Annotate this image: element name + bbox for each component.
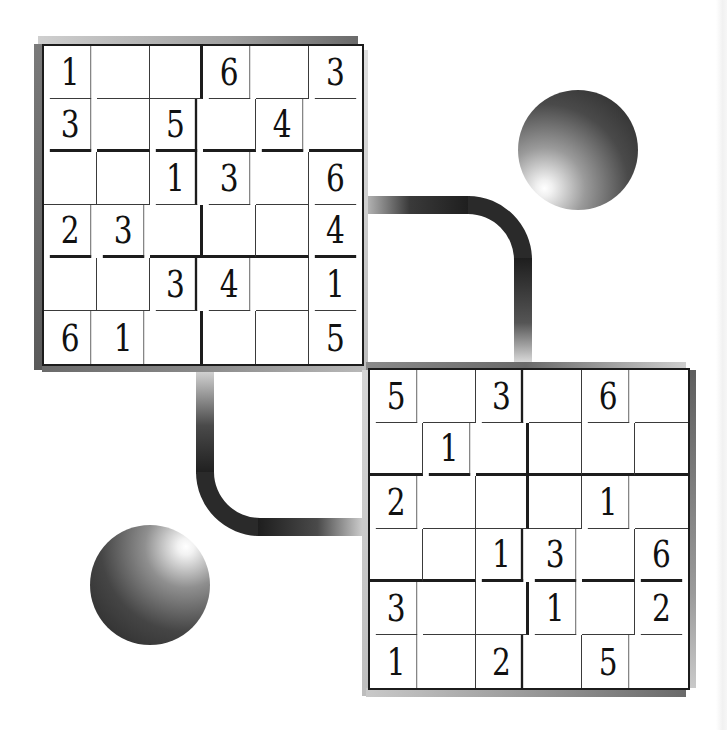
- sudoku-cell-given[interactable]: 5: [588, 635, 629, 688]
- sudoku-cell-empty[interactable]: [256, 46, 309, 99]
- sudoku-cell-given[interactable]: 1: [482, 529, 523, 582]
- sudoku-cell-given[interactable]: 3: [156, 258, 197, 311]
- sudoku-puzzle-top-left: 163354136234341615: [34, 36, 370, 372]
- sudoku-cell-given[interactable]: 5: [156, 99, 197, 152]
- sudoku-cell-empty[interactable]: [582, 423, 635, 476]
- sudoku-cell-empty[interactable]: [423, 476, 476, 529]
- sudoku-cell-given[interactable]: 1: [588, 476, 629, 529]
- sudoku-cell-empty[interactable]: [476, 476, 529, 529]
- sudoku-cell-empty[interactable]: [635, 476, 688, 529]
- sudoku-cell-empty[interactable]: [529, 423, 582, 476]
- sudoku-cell-empty[interactable]: [203, 205, 256, 258]
- sudoku-cell-empty[interactable]: [44, 152, 97, 205]
- sudoku-cell-empty[interactable]: [150, 205, 203, 258]
- sudoku-cell-empty[interactable]: [203, 311, 256, 364]
- sudoku-cell-empty[interactable]: [476, 423, 529, 476]
- sudoku-cell-empty[interactable]: [423, 370, 476, 423]
- sudoku-cell-given[interactable]: 4: [315, 205, 356, 258]
- connector-bottom-left-pipe: [190, 366, 370, 546]
- sudoku-cell-given[interactable]: 6: [588, 370, 629, 423]
- sudoku-cell-empty[interactable]: [309, 99, 362, 152]
- sudoku-cell-given[interactable]: 2: [50, 205, 91, 258]
- sudoku-cell-empty[interactable]: [582, 529, 635, 582]
- sudoku-cell-empty[interactable]: [529, 476, 582, 529]
- sudoku-cell-given[interactable]: 2: [641, 582, 682, 635]
- sudoku-cell-given[interactable]: 5: [315, 311, 356, 364]
- sudoku-cell-empty[interactable]: [203, 99, 256, 152]
- sphere-bottom-left: [90, 525, 210, 645]
- sudoku-cell-empty[interactable]: [256, 258, 309, 311]
- sudoku-cell-empty[interactable]: [476, 582, 529, 635]
- sudoku-cell-empty[interactable]: [582, 582, 635, 635]
- sudoku-cell-empty[interactable]: [97, 46, 150, 99]
- sudoku-cell-given[interactable]: 6: [209, 46, 250, 99]
- sudoku-cell-given[interactable]: 1: [156, 152, 197, 205]
- sudoku-cell-empty[interactable]: [256, 311, 309, 364]
- sudoku-cell-given[interactable]: 3: [209, 152, 250, 205]
- sudoku-cell-empty[interactable]: [423, 582, 476, 635]
- sudoku-cell-given[interactable]: 2: [376, 476, 417, 529]
- sudoku-cell-given[interactable]: 6: [315, 152, 356, 205]
- sudoku-cell-given[interactable]: 6: [50, 311, 91, 364]
- sudoku-cell-empty[interactable]: [256, 152, 309, 205]
- sudoku-grid: 163354136234341615: [42, 44, 364, 366]
- sudoku-cell-empty[interactable]: [423, 635, 476, 688]
- sudoku-cell-empty[interactable]: [256, 205, 309, 258]
- sudoku-cell-given[interactable]: 3: [376, 582, 417, 635]
- sudoku-cell-empty[interactable]: [97, 258, 150, 311]
- sudoku-cell-empty[interactable]: [97, 99, 150, 152]
- sudoku-cell-given[interactable]: 4: [209, 258, 250, 311]
- sudoku-cell-given[interactable]: 1: [376, 635, 417, 688]
- sudoku-cell-empty[interactable]: [423, 529, 476, 582]
- sudoku-grid: 536121136312125: [368, 368, 690, 690]
- sudoku-cell-empty[interactable]: [44, 258, 97, 311]
- sudoku-cell-given[interactable]: 1: [535, 582, 576, 635]
- sudoku-cell-empty[interactable]: [97, 152, 150, 205]
- sudoku-cell-empty[interactable]: [635, 423, 688, 476]
- sphere-top-right: [518, 90, 638, 210]
- sudoku-cell-given[interactable]: 5: [376, 370, 417, 423]
- sudoku-cell-given[interactable]: 1: [103, 311, 144, 364]
- sudoku-cell-given[interactable]: 3: [535, 529, 576, 582]
- sudoku-cell-empty[interactable]: [529, 635, 582, 688]
- sudoku-cell-empty[interactable]: [370, 529, 423, 582]
- sudoku-cell-empty[interactable]: [150, 46, 203, 99]
- sudoku-cell-empty[interactable]: [370, 423, 423, 476]
- sudoku-puzzle-bottom-right: 536121136312125: [362, 362, 698, 698]
- sudoku-cell-given[interactable]: 3: [50, 99, 91, 152]
- sudoku-cell-given[interactable]: 3: [315, 46, 356, 99]
- sudoku-cell-given[interactable]: 3: [103, 205, 144, 258]
- sudoku-cell-given[interactable]: 6: [641, 529, 682, 582]
- sudoku-cell-given[interactable]: 1: [429, 423, 470, 476]
- sudoku-cell-given[interactable]: 3: [482, 370, 523, 423]
- sudoku-cell-given[interactable]: 4: [262, 99, 303, 152]
- sudoku-cell-empty[interactable]: [150, 311, 203, 364]
- sudoku-cell-given[interactable]: 1: [315, 258, 356, 311]
- sudoku-cell-empty[interactable]: [635, 370, 688, 423]
- connector-top-right-pipe: [360, 190, 540, 370]
- sudoku-cell-empty[interactable]: [529, 370, 582, 423]
- sudoku-cell-empty[interactable]: [635, 635, 688, 688]
- sudoku-cell-given[interactable]: 1: [50, 46, 91, 99]
- page-edge-band: [716, 0, 727, 730]
- sudoku-cell-given[interactable]: 2: [482, 635, 523, 688]
